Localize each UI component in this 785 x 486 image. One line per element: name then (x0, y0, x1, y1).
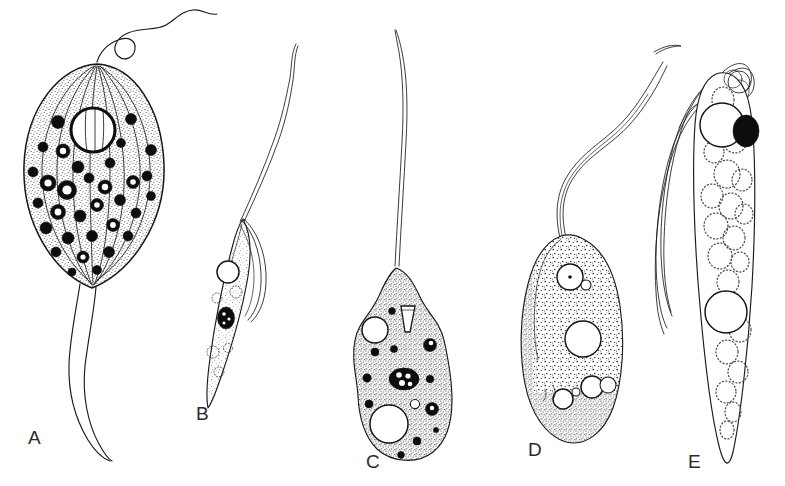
plate-drawing (0, 0, 785, 486)
organism-d-small-vesicle-upper (581, 280, 591, 290)
organism-c-vacuole-upper (362, 317, 388, 343)
panel-label-c: C (366, 452, 380, 471)
organism-b-vacuole (217, 261, 239, 283)
organism-a-nucleus (71, 108, 115, 152)
organism-d-vacuole-central (565, 321, 601, 357)
organism-e-vacuole-mid (705, 291, 747, 333)
organism-d-nucleus (557, 264, 583, 290)
panel-label-a: A (28, 428, 41, 447)
organism-e-nucleus (733, 115, 759, 147)
panel-label-e: E (688, 452, 701, 471)
organism-b-nucleus (218, 307, 235, 329)
panel-label-b: B (196, 404, 209, 423)
organism-c-small-vesicle (410, 399, 419, 408)
figure-plate: A B C D E (0, 0, 785, 486)
organism-c-nucleus (389, 368, 419, 390)
organism-c-vacuole-lower (370, 405, 408, 443)
panel-label-d: D (528, 440, 542, 459)
